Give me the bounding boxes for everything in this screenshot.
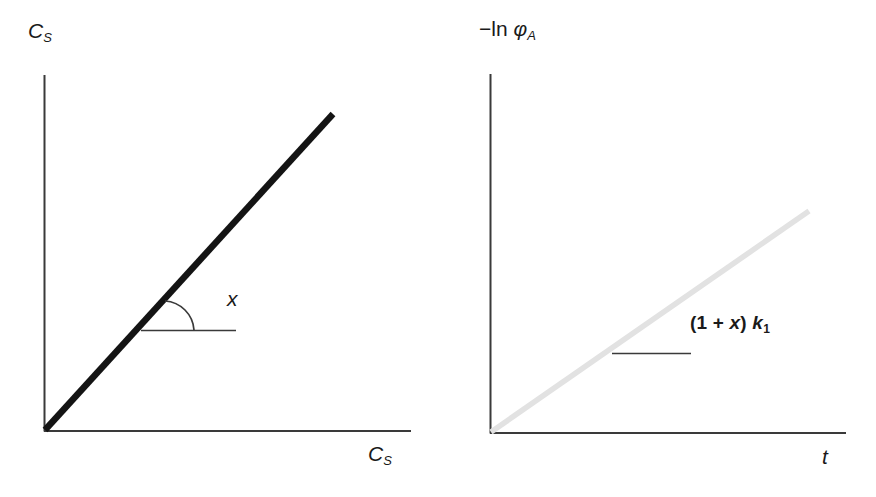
right-y-axis-label-prefix: −ln [479,17,513,40]
left-angle-label-text: x [227,287,238,310]
left-panel-group [44,75,411,432]
left-data-line [45,114,333,430]
right-slope-label-open: (1 [690,312,713,333]
left-y-axis-label-subscript: S [43,30,52,45]
left-angle-arc [165,301,194,330]
right-x-axis-label: t [822,446,828,467]
left-angle-label: x [227,288,238,309]
right-y-axis-label-symbol: φ [513,17,527,40]
right-slope-label-variable: x [730,312,741,333]
right-slope-label-plus: + [713,312,730,333]
left-y-axis-label: CS [28,20,52,44]
right-slope-label-close: ) [740,312,752,333]
left-x-axis-label: CS [368,443,392,467]
right-slope-label-rate-subscript: 1 [763,322,770,336]
right-x-axis-label-text: t [822,445,828,468]
right-panel-group [490,74,846,434]
right-y-axis-label: −ln φA [479,18,536,42]
left-x-axis-label-main: C [368,442,383,465]
left-x-axis-label-subscript: S [383,453,392,468]
left-y-axis-label-main: C [28,19,43,42]
figure-canvas: CS CS x −ln φA t (1 + x) k1 [0,0,876,497]
right-slope-label: (1 + x) k1 [690,313,770,335]
figure-graphics [0,0,876,497]
right-slope-label-rate-constant: k [752,312,763,333]
right-y-axis-label-subscript: A [527,28,536,43]
